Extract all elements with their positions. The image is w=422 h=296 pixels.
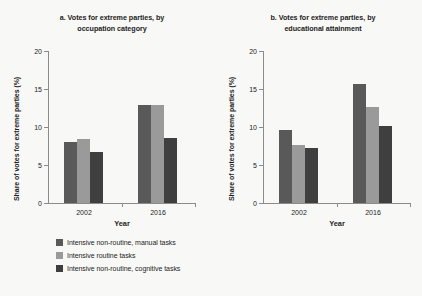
legend-item: Intensive non-routine, cognitive tasks [56,262,180,275]
panel-a-plot-area: 0 5 10 15 20 [48,51,196,203]
panel-a-ytick-10: 10 [48,127,52,128]
panel-a-bar-2002-s1 [64,142,77,203]
panel-b-ytick-20: 20 [263,51,267,52]
panel-a-title-line2: occupation category [77,24,146,33]
legend-swatch-icon [56,265,63,272]
panel-b-xtick-sep [337,203,338,207]
panel-b-xtick-label-2016: 2016 [365,209,381,216]
legend-swatch-icon [56,239,63,246]
panel-b-title: b. Votes for extreme parties, by educati… [233,13,413,34]
legend-item: Intensive non-routine, manual tasks [56,236,180,249]
panel-b-ytick-5: 5 [263,165,267,166]
panel-a-bar-2002-s2 [77,139,90,203]
panel-a-y-axis-label: Share of votes for extreme parties (%) [13,77,20,201]
panel-a-xtick-label-2002: 2002 [76,209,92,216]
panel-a-bar-2016-s3 [164,138,177,203]
panel-a-legend: Intensive non-routine, manual tasks Inte… [56,236,180,275]
chart-panel-b: b. Votes for extreme parties, by educati… [211,0,422,296]
panel-b-xtick-end [410,203,411,207]
panel-b-ytick-15: 15 [263,89,267,90]
panel-a-ytick-15: 15 [48,89,52,90]
panel-b-xtick-label-2002: 2002 [291,209,307,216]
panel-b-bar-2002-s2 [292,145,305,204]
legend-swatch-icon [56,252,63,259]
panel-a-ytick-label-0: 0 [38,200,42,207]
panel-a-ytick-0: 0 [48,203,52,204]
panel-a-title-line1: a. Votes for extreme parties, by [60,13,165,22]
legend-item: Intensive routine tasks [56,249,180,262]
panel-a-ytick-label-10: 10 [34,124,42,131]
panel-b-title-line1: b. Votes for extreme parties, by [271,13,376,22]
panel-a-bar-2016-s2 [151,105,164,203]
panel-b-x-axis-title: Year [263,219,411,228]
legend-label: Intensive non-routine, cognitive tasks [67,265,180,272]
panel-a-ytick-label-20: 20 [34,48,42,55]
panel-b-ytick-label-0: 0 [253,200,257,207]
panel-a-bar-2016-s1 [138,105,151,203]
panel-b-bar-2002-s3 [305,148,318,204]
panel-a-title: a. Votes for extreme parties, by occupat… [22,13,202,34]
panel-b-bar-2016-s1 [353,84,366,203]
panel-a-xtick-sep [122,203,123,207]
legend-label: Intensive routine tasks [67,252,136,259]
panel-b-y-axis-label: Share of votes for extreme parties (%) [228,77,235,201]
legend-label: Intensive non-routine, manual tasks [67,239,176,246]
panel-a-xtick-label-2016: 2016 [150,209,166,216]
panel-a-ytick-label-5: 5 [38,162,42,169]
panel-b-ytick-label-5: 5 [253,162,257,169]
panel-b-bar-2016-s2 [366,107,379,203]
chart-panel-a: a. Votes for extreme parties, by occupat… [0,0,211,296]
panel-b-ytick-label-10: 10 [249,124,257,131]
panel-b-title-line2: educational attainment [284,24,361,33]
panel-b-ytick-label-15: 15 [249,86,257,93]
panel-a-bar-2002-s3 [90,152,103,203]
panel-b-ytick-0: 0 [263,203,267,204]
panel-b-bar-2016-s3 [379,126,392,203]
panel-a-ytick-label-15: 15 [34,86,42,93]
panel-b-bar-2002-s1 [279,130,292,203]
figure-container: a. Votes for extreme parties, by occupat… [0,0,422,296]
panel-a-xtick-end [195,203,196,207]
panel-a-x-axis-title: Year [48,219,196,228]
panel-b-plot-area: 0 5 10 15 20 [263,51,411,203]
panel-a-ytick-20: 20 [48,51,52,52]
panel-b-ytick-label-20: 20 [249,48,257,55]
panel-b-ytick-10: 10 [263,127,267,128]
panel-a-ytick-5: 5 [48,165,52,166]
